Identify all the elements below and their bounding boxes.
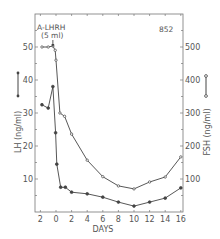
lh-point: [55, 163, 58, 166]
lh-point: [86, 192, 89, 195]
x-tick-label: 0: [53, 215, 58, 224]
lh-point: [51, 85, 54, 88]
fsh-point: [164, 176, 166, 178]
annotation-text: 852: [159, 25, 174, 34]
lh-point: [64, 186, 67, 189]
lh-point: [54, 131, 57, 134]
lh-point: [164, 197, 167, 200]
lh-point: [148, 201, 151, 204]
fsh-point: [102, 175, 104, 177]
plot-frame: [35, 14, 183, 212]
x-tick-label: 2: [69, 215, 74, 224]
x-tick-label: 8: [116, 215, 121, 224]
lh-point: [133, 205, 136, 208]
lh-point: [47, 107, 50, 110]
y-left-tick-label: 10: [23, 175, 33, 184]
fsh-axis-label: FSH (ng/ml): [203, 108, 212, 155]
lh-point: [41, 103, 44, 106]
y-right-tick-label: 300: [185, 109, 200, 118]
x-tick-label: 2: [38, 215, 43, 224]
y-left-tick-label: 50: [23, 43, 33, 52]
fsh-point: [59, 112, 61, 114]
y-axis-left-ticks: 1020304050: [23, 31, 38, 196]
fsh-point: [70, 133, 72, 135]
y-right-tick-label: 100: [185, 175, 200, 184]
y-left-tick-label: 30: [23, 109, 33, 118]
y-right-tick-label: 500: [185, 43, 200, 52]
annotation-text: (5 ml): [41, 31, 63, 40]
y-axis-right-title: FSH (ng/ml): [203, 108, 212, 155]
fsh-point: [117, 185, 119, 187]
y-left-tick-label: 20: [23, 142, 33, 151]
lh-point: [117, 201, 120, 204]
data-series: [41, 40, 183, 207]
fsh-point: [41, 46, 43, 48]
lh-legend-marker: [17, 72, 20, 98]
fsh-point: [47, 46, 49, 48]
y-left-tick-label: 40: [23, 76, 33, 85]
x-tick-label: 16: [176, 215, 186, 224]
lh-point: [101, 196, 104, 199]
lh-point: [59, 186, 62, 189]
plot-border: [35, 14, 183, 212]
x-tick-label: 12: [145, 215, 155, 224]
y-right-tick-label: 400: [185, 76, 200, 85]
fsh-point: [133, 188, 135, 190]
fsh-point: [54, 49, 56, 51]
fsh-point: [63, 115, 65, 117]
lh-fsh-chart: 20246810121416 1020304050 10020030040050…: [0, 0, 220, 239]
lh-point: [70, 191, 73, 194]
y-axis-left-title: LH (ng/ml): [14, 111, 23, 153]
fsh-line: [42, 46, 181, 189]
y-right-tick-label: 200: [185, 142, 200, 151]
x-axis-title: DAYS: [93, 225, 114, 234]
lh-line: [42, 87, 181, 207]
x-tick-label: 4: [85, 215, 90, 224]
fsh-legend-marker: [205, 75, 208, 98]
x-tick-label: 6: [100, 215, 105, 224]
fsh-point: [55, 59, 57, 61]
lh-point: [179, 187, 182, 190]
fsh-point: [180, 156, 182, 158]
x-tick-label: 10: [129, 215, 139, 224]
fsh-point: [86, 159, 88, 161]
x-tick-label: 14: [160, 215, 170, 224]
annotations: A-LHRH(5 ml)852: [37, 23, 174, 40]
fsh-point: [148, 181, 150, 183]
lh-axis-label: LH (ng/ml): [14, 111, 23, 153]
